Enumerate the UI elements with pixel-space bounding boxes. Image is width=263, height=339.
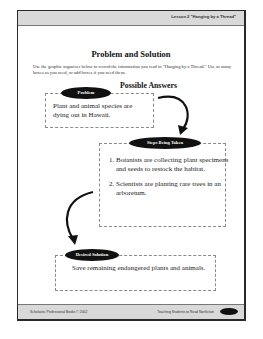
footer-copyright: Scholastic Professional Books © 2002 bbox=[30, 310, 87, 314]
arrow-icon bbox=[67, 192, 93, 245]
footer-book-title: Teaching Students to Read Nonfiction bbox=[157, 310, 214, 314]
footer-band: Scholastic Professional Books © 2002 Tea… bbox=[18, 304, 244, 319]
worksheet-page: Lesson 2 "Hanging by a Thread" Problem a… bbox=[17, 10, 246, 321]
page-number bbox=[220, 308, 238, 315]
arrow-icon bbox=[158, 97, 188, 135]
flow-arrows bbox=[18, 11, 247, 322]
